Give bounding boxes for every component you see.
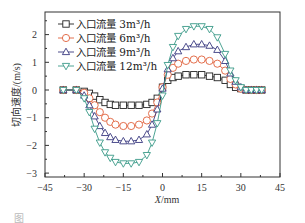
triangle-down-marker [175, 33, 182, 39]
triangle-down-marker [62, 63, 69, 69]
square-marker [63, 21, 69, 27]
square-marker [198, 72, 204, 78]
square-marker [128, 102, 134, 108]
triangle-down-marker [86, 110, 93, 116]
x-tick-label: 45 [275, 182, 285, 193]
x-tick-label: 0 [160, 182, 165, 193]
x-tick-label: −15 [116, 182, 132, 193]
circle-marker [112, 121, 119, 128]
x-tick-label: 30 [236, 182, 246, 193]
circle-marker [128, 122, 135, 129]
legend-label: 入口流量 3m³/h [76, 18, 151, 30]
triangle-down-marker [128, 161, 135, 167]
circle-marker [198, 56, 205, 63]
legend: 入口流量 3m³/h入口流量 6m³/h入口流量 9m³/h入口流量 12m³/… [58, 18, 157, 72]
legend-item-1: 入口流量 3m³/h [58, 18, 151, 30]
square-marker [175, 73, 181, 79]
triangle-up-marker [190, 40, 197, 46]
triangle-up-marker [135, 136, 142, 142]
x-tick-label: −45 [37, 182, 53, 193]
legend-item-4: 入口流量 12m³/h [58, 60, 157, 72]
y-tick-label: −1 [26, 112, 37, 123]
triangle-up-marker [214, 46, 221, 52]
triangle-up-marker [198, 40, 205, 46]
y-tick-label: 0 [32, 85, 37, 96]
y-axis-label: 切向速度/(m/s) [10, 63, 23, 127]
circle-marker [182, 57, 189, 64]
circle-marker [143, 117, 150, 124]
triangle-up-marker [175, 47, 182, 53]
triangle-down-marker [143, 152, 150, 158]
circle-marker [96, 109, 103, 116]
circle-marker [190, 56, 197, 63]
circle-marker [135, 121, 142, 128]
square-marker [136, 102, 142, 108]
circle-marker [206, 57, 213, 64]
y-tick-label: −3 [26, 168, 37, 179]
x-tick-label: −30 [76, 182, 92, 193]
circle-marker [62, 34, 69, 41]
legend-label: 入口流量 12m³/h [76, 60, 157, 72]
triangle-down-marker [182, 26, 189, 32]
circle-marker [120, 122, 127, 129]
line-chart: −45−30−150153045−3−2−1012 入口流量 3m³/h入口流量… [0, 0, 305, 223]
figure-caption: 图 [14, 210, 294, 223]
triangle-down-marker [169, 44, 176, 50]
x-tick-label: 15 [197, 182, 207, 193]
y-tick-label: 1 [32, 57, 37, 68]
triangle-down-marker [91, 126, 98, 132]
x-axis-label: X/mm [154, 194, 180, 205]
square-marker [120, 102, 126, 108]
square-marker [206, 73, 212, 79]
square-marker [191, 72, 197, 78]
triangle-up-marker [143, 131, 150, 137]
circle-marker [214, 60, 221, 67]
legend-item-2: 入口流量 6m³/h [58, 32, 151, 44]
triangle-down-marker [120, 161, 127, 167]
legend-label: 入口流量 9m³/h [76, 46, 151, 58]
square-marker [183, 72, 189, 78]
triangle-down-marker [148, 140, 155, 146]
y-tick-label: −2 [26, 140, 37, 151]
legend-label: 入口流量 6m³/h [76, 32, 151, 44]
square-marker [112, 102, 118, 108]
legend-item-3: 入口流量 9m³/h [58, 46, 151, 58]
square-marker [214, 74, 220, 80]
y-tick-label: 2 [32, 29, 37, 40]
triangle-down-marker [214, 35, 221, 41]
triangle-down-marker [96, 140, 103, 146]
triangle-up-marker [62, 48, 69, 54]
